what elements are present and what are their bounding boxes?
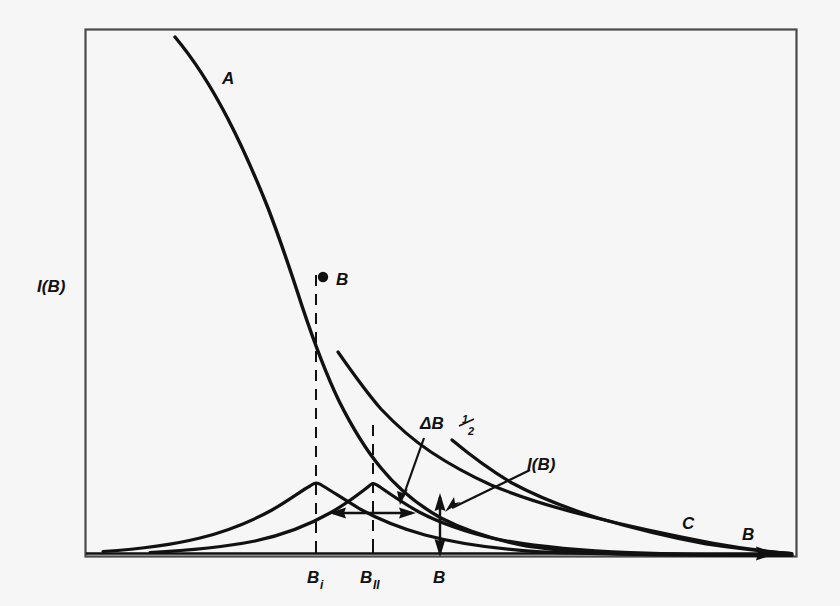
curve-c-upper (338, 352, 792, 554)
frame-rect (86, 30, 797, 557)
y-axis-label: I(B) (37, 277, 66, 296)
scientific-figure: I(B) B A B C ΔB 1 2 I(B) B i B II B (0, 0, 840, 606)
fwhm-label-denominator: 2 (467, 425, 474, 437)
fwhm-label-base: ΔB (419, 414, 444, 433)
curve-a-label: A (221, 69, 234, 88)
x-tick-label-b-ii-sub: II (373, 578, 380, 592)
x-tick-label-b: B (433, 568, 445, 587)
x-tick-label-b-base: B (433, 568, 445, 587)
point-b-label: B (336, 270, 348, 289)
x-tick-label-b-ii-base: B (360, 568, 372, 587)
x-axis-label: B (742, 525, 754, 544)
curve-c-label: C (682, 514, 695, 533)
x-tick-label-b-ii: B II (360, 568, 380, 592)
intensity-leader-line (452, 470, 530, 508)
intensity-arrowhead-top (435, 493, 446, 511)
fwhm-leader-line (403, 438, 424, 497)
curve-c-trace (452, 440, 790, 553)
x-tick-label-b-i-base: B (307, 568, 319, 587)
fwhm-label-group: ΔB 1 2 (419, 413, 474, 437)
x-tick-label-b-i-sub: i (320, 578, 324, 592)
intensity-double-arrow (435, 493, 446, 557)
x-tick-label-b-i: B i (307, 568, 324, 592)
figure-container: I(B) B A B C ΔB 1 2 I(B) B i B II B (0, 0, 840, 606)
plot-frame (86, 30, 797, 557)
intensity-annotation-label: I(B) (527, 455, 556, 474)
point-marker-b (318, 272, 328, 282)
